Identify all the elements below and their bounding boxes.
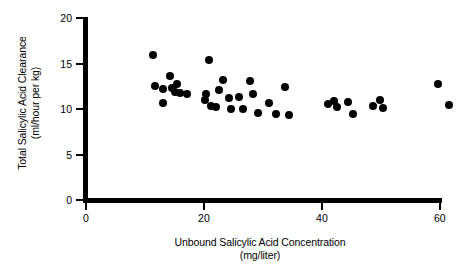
x-tick-mark	[85, 203, 87, 210]
y-tick-label: 15	[48, 59, 72, 70]
data-point	[227, 105, 235, 113]
data-point	[281, 83, 289, 91]
data-point	[376, 96, 384, 104]
x-tick-mark	[439, 203, 441, 210]
data-point	[349, 110, 357, 118]
scatter-plot-figure: Total Salicylic Acid Clearance (ml/hour …	[0, 0, 469, 277]
y-tick-label: 5	[48, 150, 72, 161]
y-tick-label: 0	[48, 195, 72, 206]
x-tick-label: 60	[425, 213, 455, 224]
data-point	[369, 102, 377, 110]
y-tick-label: 10	[48, 104, 72, 115]
y-axis-label-line2: (ml/hour per kg)	[29, 36, 42, 170]
data-point	[239, 105, 247, 113]
y-axis-label-line1: Total Salicylic Acid Clearance	[16, 36, 29, 170]
plot-area	[86, 18, 444, 200]
data-point	[151, 82, 159, 90]
y-tick-mark	[76, 199, 83, 201]
data-point	[219, 76, 227, 84]
y-axis-label: Total Salicylic Acid Clearance (ml/hour …	[0, 0, 58, 205]
data-point	[205, 56, 213, 64]
x-tick-label: 40	[307, 213, 337, 224]
data-point	[173, 80, 181, 88]
y-tick-mark	[76, 17, 83, 19]
data-point	[249, 90, 257, 98]
x-tick-label: 20	[189, 213, 219, 224]
data-point	[159, 99, 167, 107]
x-axis-label-line2: (mg/liter)	[60, 249, 460, 262]
data-point	[159, 85, 167, 93]
data-point	[235, 93, 243, 101]
data-point	[272, 110, 280, 118]
data-point	[434, 80, 442, 88]
data-point	[379, 104, 387, 112]
y-tick-label: 20	[48, 13, 72, 24]
y-tick-mark	[76, 108, 83, 110]
data-point	[333, 103, 341, 111]
x-axis-label: Unbound Salicylic Acid Concentration (mg…	[60, 236, 460, 262]
data-point	[344, 98, 352, 106]
data-point	[225, 94, 233, 102]
y-tick-mark	[76, 154, 83, 156]
data-point	[285, 111, 293, 119]
y-tick-mark	[76, 63, 83, 65]
data-point	[183, 90, 191, 98]
x-tick-label: 0	[71, 213, 101, 224]
data-point	[254, 109, 262, 117]
x-tick-mark	[321, 203, 323, 210]
x-tick-mark	[203, 203, 205, 210]
data-point	[212, 103, 220, 111]
data-point	[166, 72, 174, 80]
data-point	[149, 51, 157, 59]
data-point	[215, 86, 223, 94]
data-point	[246, 77, 254, 85]
x-axis-label-line1: Unbound Salicylic Acid Concentration	[60, 236, 460, 249]
data-point	[265, 99, 273, 107]
data-point	[445, 101, 453, 109]
